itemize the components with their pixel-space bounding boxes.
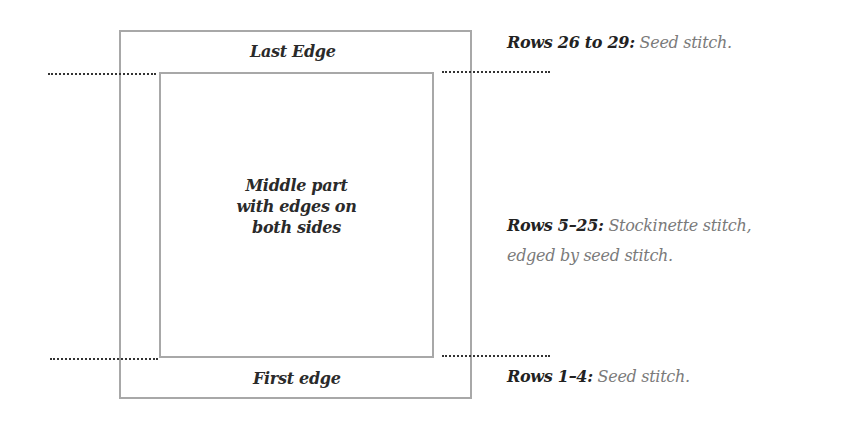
bottom-right-dotted-divider — [442, 355, 550, 357]
note-rows-26-29-range: Rows 26 to 29: — [507, 33, 635, 52]
middle-part-line-3: both sides — [159, 217, 434, 238]
first-edge-label: First edge — [253, 369, 341, 388]
middle-part-line-2: with edges on — [159, 196, 434, 217]
note-rows-5-25-range: Rows 5–25: — [507, 216, 604, 235]
note-rows-1-4: Rows 1–4: Seed stitch. — [507, 362, 690, 392]
last-edge-label: Last Edge — [250, 42, 336, 61]
top-right-dotted-divider — [442, 71, 550, 73]
middle-part-line-1: Middle part — [159, 175, 434, 196]
note-rows-1-4-description: Seed stitch. — [593, 367, 690, 386]
top-left-dotted-divider — [48, 73, 156, 75]
bottom-left-dotted-divider — [50, 358, 158, 360]
note-rows-26-29-description: Seed stitch. — [635, 33, 732, 52]
note-rows-5-25: Rows 5–25: Stockinette stitch, edged by … — [507, 211, 751, 271]
note-rows-26-29: Rows 26 to 29: Seed stitch. — [507, 28, 732, 58]
middle-part-label: Middle part with edges on both sides — [159, 175, 434, 238]
note-rows-5-25-description: Stockinette stitch, — [604, 216, 752, 235]
note-rows-5-25-description-line2: edged by seed stitch. — [507, 246, 673, 265]
note-rows-1-4-range: Rows 1–4: — [507, 367, 593, 386]
